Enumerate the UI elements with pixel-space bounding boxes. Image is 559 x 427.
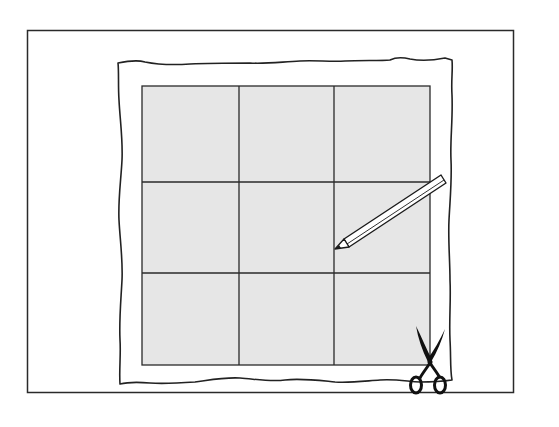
grid-area: [142, 86, 430, 365]
diagram-canvas: [0, 0, 559, 427]
